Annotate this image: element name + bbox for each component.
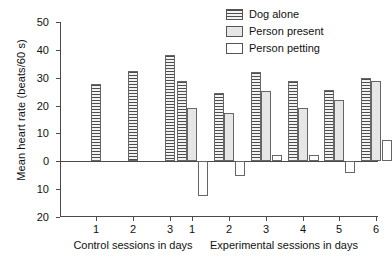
legend-swatch-icon [226, 9, 243, 20]
x-group-label: Experimental sessions in days [210, 239, 358, 251]
x-tick-label: 3 [263, 223, 269, 235]
bar [361, 78, 371, 162]
x-tick [339, 217, 340, 221]
x-tick-label: 1 [93, 223, 99, 235]
y-tick-label: 0 [43, 155, 49, 167]
y-tick: 40 [56, 50, 60, 51]
bar [334, 100, 344, 161]
x-tick-label: 1 [189, 223, 195, 235]
y-tick: 10 [56, 133, 60, 134]
x-tick-label: 4 [300, 223, 306, 235]
x-axis-line [60, 216, 378, 217]
x-tick [229, 217, 230, 221]
legend-swatch-icon [226, 43, 243, 54]
y-tick: 30 [56, 78, 60, 79]
x-tick [303, 217, 304, 221]
x-tick [266, 217, 267, 221]
x-tick [192, 217, 193, 221]
y-tick-label: 20 [37, 211, 49, 223]
bar [261, 91, 271, 162]
bar [272, 155, 282, 162]
bar [298, 108, 308, 162]
y-axis-line [60, 22, 61, 217]
y-tick-label: 20 [37, 100, 49, 112]
legend-item: Person petting [226, 42, 324, 54]
y-tick: 50 [56, 22, 60, 23]
bar [187, 108, 197, 161]
bar [198, 161, 208, 196]
bar [251, 72, 261, 161]
bar [235, 161, 245, 176]
bar [324, 90, 334, 161]
y-tick-label: 40 [37, 44, 49, 56]
legend-item: Person present [226, 25, 324, 37]
bar [309, 155, 319, 161]
x-tick [133, 217, 134, 221]
x-tick-label: 5 [336, 223, 342, 235]
bar [128, 71, 138, 161]
bar [214, 93, 224, 162]
x-tick-label: 6 [373, 223, 379, 235]
bar [165, 55, 175, 161]
x-tick [170, 217, 171, 221]
bar [177, 81, 187, 161]
legend-label: Person petting [249, 42, 320, 54]
y-tick: 10 [56, 189, 60, 190]
legend-label: Dog alone [249, 8, 299, 20]
bar [288, 81, 298, 161]
chart-legend: Dog alonePerson presentPerson petting [226, 8, 324, 54]
bar [371, 81, 381, 162]
y-tick: 20 [56, 217, 60, 218]
bar [382, 140, 392, 161]
x-group-label: Control sessions in days [73, 239, 192, 251]
legend-swatch-icon [226, 26, 243, 37]
x-tick-label: 3 [167, 223, 173, 235]
bar [345, 161, 355, 173]
plot-area: 504030201001020 [60, 22, 378, 217]
y-tick-label: 10 [37, 183, 49, 195]
zero-baseline [60, 161, 378, 162]
legend-item: Dog alone [226, 8, 324, 20]
y-tick: 20 [56, 106, 60, 107]
x-tick [376, 217, 377, 221]
y-tick-label: 50 [37, 16, 49, 28]
y-tick-label: 30 [37, 72, 49, 84]
y-tick-label: 10 [37, 127, 49, 139]
x-tick-label: 2 [130, 223, 136, 235]
legend-label: Person present [249, 25, 324, 37]
y-axis-title: Mean heart rate (beats/60 s) [15, 15, 27, 205]
bar [91, 84, 101, 161]
x-tick [96, 217, 97, 221]
bar [224, 113, 234, 161]
x-tick-label: 2 [226, 223, 232, 235]
